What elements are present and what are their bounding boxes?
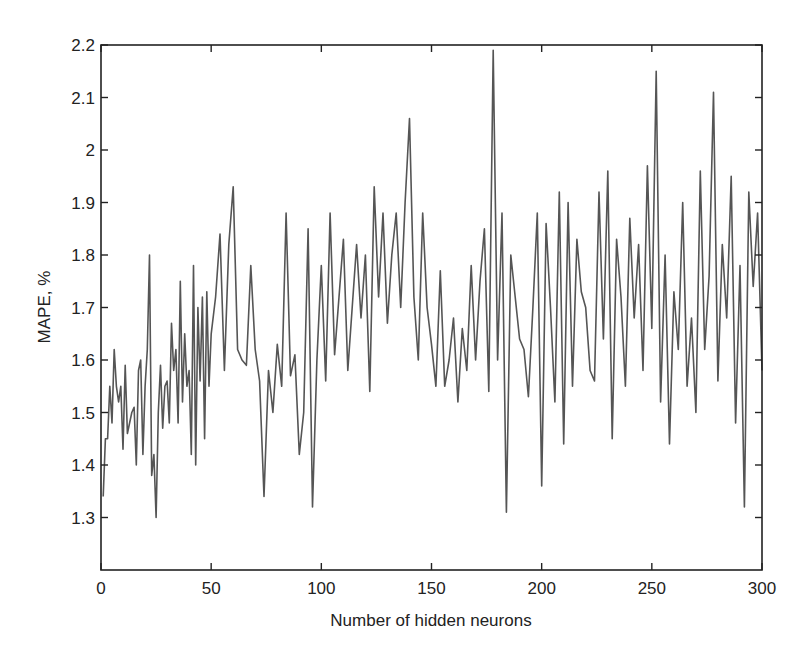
y-tick-label: 2.2 <box>71 36 95 55</box>
plot-area <box>103 50 762 517</box>
x-tick-label: 50 <box>202 579 221 598</box>
line-chart: 1.31.41.51.61.71.81.922.12.2 05010015020… <box>0 0 808 656</box>
x-tick-label: 300 <box>748 579 776 598</box>
x-tick-label: 200 <box>527 579 555 598</box>
x-tick-label: 250 <box>638 579 666 598</box>
y-tick-label: 1.9 <box>71 194 95 213</box>
y-tick-label: 1.8 <box>71 246 95 265</box>
x-tick-label: 0 <box>96 579 105 598</box>
x-tick-label: 100 <box>307 579 335 598</box>
y-tick-label: 1.6 <box>71 351 95 370</box>
y-tick-label: 1.5 <box>71 404 95 423</box>
y-tick-label: 2.1 <box>71 89 95 108</box>
y-tick-label: 1.4 <box>71 456 95 475</box>
y-tick-label: 1.3 <box>71 509 95 528</box>
y-axis-label: MAPE, % <box>35 271 54 344</box>
y-tick-label: 2 <box>86 141 95 160</box>
x-tick-label: 150 <box>417 579 445 598</box>
y-tick-label: 1.7 <box>71 299 95 318</box>
series-line-mape <box>103 50 762 517</box>
x-axis-label: Number of hidden neurons <box>330 611 531 630</box>
